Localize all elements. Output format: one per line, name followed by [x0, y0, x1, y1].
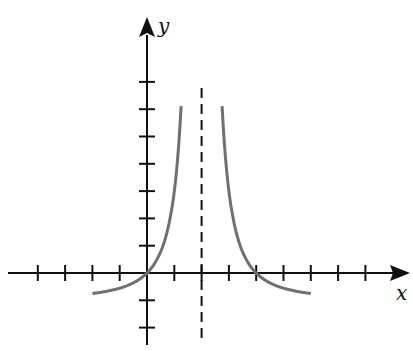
curve-right-branch	[222, 106, 311, 293]
x-axis-arrow-icon	[390, 265, 410, 281]
y-axis-label: y	[157, 14, 170, 38]
axes	[8, 17, 410, 345]
curve-left-branch	[92, 106, 181, 293]
y-axis-arrow-icon	[139, 17, 155, 37]
x-axis-label: x	[396, 281, 407, 305]
chart: x y	[0, 0, 413, 351]
